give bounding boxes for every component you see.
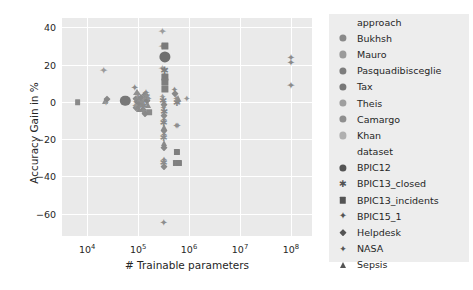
y-tick-label: 40 (12, 22, 56, 33)
data-point: ✱ (142, 92, 150, 102)
legend-dataset-item-nasa[interactable]: ✦NASA (329, 241, 469, 257)
legend-group-title-approach: approach (329, 14, 469, 30)
legend-title-spacer (329, 144, 357, 160)
data-point: ✱ (159, 118, 167, 128)
legend-marker-star-icon: ✱ (329, 176, 357, 192)
data-point: ✦ (171, 85, 179, 95)
x-axis-label: # Trainable parameters (62, 259, 312, 271)
data-point: ✦ (160, 115, 168, 125)
x-tick-label: 108 (283, 243, 299, 255)
legend-marker-circle-icon (329, 127, 357, 143)
legend-label: Camargo (357, 114, 400, 125)
legend-dataset-item-bpic13-closed[interactable]: ✱BPIC13_closed (329, 176, 469, 192)
legend-marker-diamond-icon (329, 225, 357, 241)
data-point (174, 149, 180, 155)
data-point (161, 42, 168, 49)
data-point: ✱ (173, 98, 181, 108)
x-tick-label: 104 (79, 243, 95, 255)
gridline-vertical (240, 18, 241, 236)
gridline-horizontal (62, 214, 312, 215)
data-point: ✦ (158, 92, 166, 102)
legend-label: BPIC13_incidents (357, 195, 439, 206)
data-point: ✦ (102, 98, 110, 107)
legend-dataset-items: BPIC12✱BPIC13_closedBPIC13_incidents✦BPI… (329, 160, 469, 273)
legend-approach-item-tax[interactable]: Tax (329, 79, 469, 95)
legend-approach-item-khan[interactable]: Khan (329, 127, 469, 143)
data-point (160, 163, 168, 171)
legend-marker-triangle-icon (329, 257, 357, 273)
legend-approach-item-pasquadibisceglie[interactable]: Pasquadibisceglie (329, 63, 469, 79)
data-point: ✦ (142, 88, 150, 98)
data-point (160, 127, 168, 135)
gridline-vertical (87, 18, 88, 236)
gridline-horizontal (62, 65, 312, 66)
scatter-plot-figure: ✦✦✦✱✦✦✱✦✦✱✦✦✱✦✦✦✦✦✦✱✦✱✦✱✦✱✦✱✦✱✦✦✦✱✦✦✦✦✦✦… (0, 0, 473, 290)
data-point: ✱ (160, 158, 168, 168)
legend-label: BPIC12 (357, 162, 391, 173)
data-point (141, 91, 149, 99)
gridline-horizontal (62, 176, 312, 177)
legend-approach-item-camargo[interactable]: Camargo (329, 111, 469, 127)
legend-marker-plus-icon: ✦ (329, 241, 357, 257)
legend-label: Bukhsh (357, 33, 392, 44)
data-point (175, 160, 181, 166)
data-point: ✦ (158, 41, 167, 52)
x-tick-label: 105 (130, 243, 146, 255)
legend-label: Helpdesk (357, 227, 401, 238)
legend-label: Pasquadibisceglie (357, 65, 441, 76)
data-point (161, 73, 168, 80)
gridline-vertical (189, 18, 190, 236)
data-point: ✱ (160, 107, 168, 117)
data-point: ✦ (160, 155, 168, 165)
legend-approach-item-mauro[interactable]: Mauro (329, 46, 469, 62)
data-point (160, 144, 168, 152)
x-tick-label: 106 (181, 243, 197, 255)
gridline-horizontal (62, 139, 312, 140)
legend-dataset-item-bpic15-1[interactable]: ✦BPIC15_1 (329, 208, 469, 224)
legend-approach-item-theis[interactable]: Theis (329, 95, 469, 111)
legend-marker-circle-icon (329, 79, 357, 95)
data-point (161, 85, 168, 92)
data-point: ✦ (174, 121, 182, 131)
legend-dataset-item-bpic13-incidents[interactable]: BPIC13_incidents (329, 192, 469, 208)
chart-legend: approach BukhshMauroPasquadibisceglieTax… (329, 14, 469, 262)
legend-label: BPIC15_1 (357, 211, 402, 222)
data-point (160, 112, 168, 120)
data-point (161, 79, 168, 86)
legend-group-title-dataset: dataset (329, 144, 469, 160)
data-point (161, 140, 167, 146)
data-point (146, 109, 152, 115)
data-point: ✦ (141, 95, 149, 105)
legend-marker-circle-icon (329, 111, 357, 127)
legend-approach-title: approach (357, 17, 401, 28)
legend-title-spacer (329, 14, 357, 30)
legend-marker-circle-icon (329, 30, 357, 46)
data-point: ✦ (140, 106, 148, 116)
legend-approach-item-bukhsh[interactable]: Bukhsh (329, 30, 469, 46)
data-point (161, 124, 167, 130)
data-point (139, 106, 147, 114)
legend-dataset-item-helpdesk[interactable]: Helpdesk (329, 224, 469, 240)
data-point: ✦ (160, 104, 168, 114)
legend-marker-circle-icon (329, 46, 357, 62)
legend-label: NASA (357, 243, 383, 254)
legend-dataset-item-sepsis[interactable]: Sepsis (329, 257, 469, 273)
data-point: ✦ (99, 65, 108, 76)
data-point (172, 91, 180, 99)
gridline-vertical (291, 18, 292, 236)
data-point (175, 95, 181, 101)
data-point: ✦ (172, 121, 180, 131)
legend-marker-square-icon (329, 192, 357, 208)
gridline-horizontal (62, 102, 312, 103)
legend-marker-circle-icon (329, 95, 357, 111)
gridline-vertical (138, 18, 139, 236)
legend-dataset-item-bpic12[interactable]: BPIC12 (329, 160, 469, 176)
data-point (141, 110, 149, 118)
data-point (133, 89, 141, 95)
legend-marker-plus-filled-icon: ✦ (329, 208, 357, 224)
legend-marker-circle-icon (329, 63, 357, 79)
legend-label: Mauro (357, 49, 387, 60)
data-point: ✦ (160, 218, 168, 228)
legend-label: Khan (357, 130, 381, 141)
legend-marker-circle-icon (329, 160, 357, 176)
